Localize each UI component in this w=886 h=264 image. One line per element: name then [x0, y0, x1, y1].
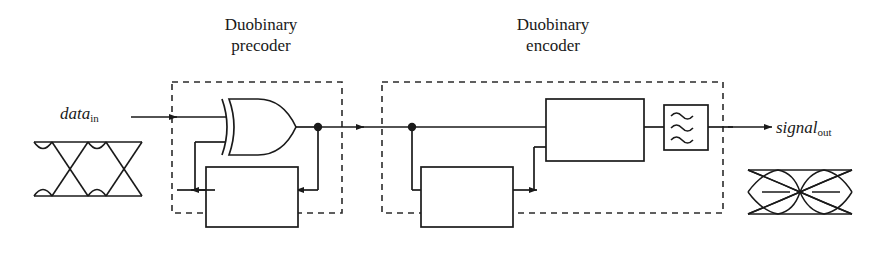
precoder-delay-block [206, 167, 298, 227]
encoder-delay-block [421, 167, 513, 227]
diagram-vector-layer [0, 0, 886, 264]
input-eye-trace-8 [88, 190, 106, 197]
input-eye-trace-7 [88, 142, 106, 149]
input-eye-diagram [34, 142, 142, 196]
output-eye-diagram [748, 170, 852, 214]
input-eye-trace-6 [34, 190, 52, 197]
xor-gate [222, 99, 296, 155]
xor-gate-body [229, 99, 296, 155]
output-eye-trace-4 [748, 192, 852, 214]
xor-gate-back-arc [222, 99, 227, 155]
diagram-root: Duobinary precoder Duobinary encoder dat… [0, 0, 886, 264]
lowpass-filter-block [664, 105, 708, 150]
input-eye-trace-5 [34, 142, 52, 149]
add-subtract-block [546, 99, 644, 161]
output-eye-trace-3 [748, 170, 852, 192]
